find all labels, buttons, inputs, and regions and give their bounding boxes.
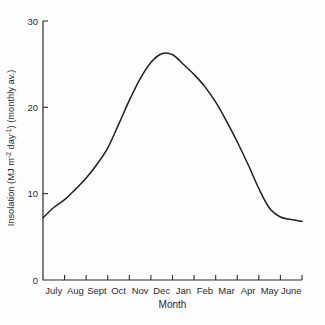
x-tick-label: May (261, 285, 279, 296)
x-tick-label: Dec (153, 285, 170, 296)
y-axis-title-text: ) (monthly av.) (6, 70, 16, 129)
y-tick-label: 20 (27, 102, 38, 113)
x-tick-label: Aug (67, 285, 84, 296)
y-axis-title: Insolation (MJ m-2 day-1) (monthly av.) (5, 70, 16, 227)
x-tick-label: Jan (176, 285, 191, 296)
x-axis-title: Month (159, 299, 187, 310)
y-tick-label: 10 (27, 188, 38, 199)
insolation-chart-svg: 0102030JulyAugSeptOctNovDecJanFebMarAprM… (0, 0, 325, 325)
x-tick-label: Apr (241, 285, 256, 296)
axes-lines (43, 21, 302, 280)
x-tick-label: June (281, 285, 302, 296)
y-axis-title-text: day (6, 134, 16, 152)
y-tick-label: 30 (27, 16, 38, 27)
x-tick-label: Nov (132, 285, 149, 296)
x-tick-label: July (45, 285, 62, 296)
y-axis-title-text: Insolation (MJ m (6, 158, 16, 226)
x-tick-label: Mar (218, 285, 234, 296)
x-tick-label: Sept (87, 285, 107, 296)
x-tick-label: Feb (197, 285, 213, 296)
insolation-figure: 0102030JulyAugSeptOctNovDecJanFebMarAprM… (0, 0, 325, 325)
y-tick-label: 0 (33, 275, 38, 286)
x-tick-label: Oct (111, 285, 126, 296)
insolation-curve (43, 53, 302, 221)
